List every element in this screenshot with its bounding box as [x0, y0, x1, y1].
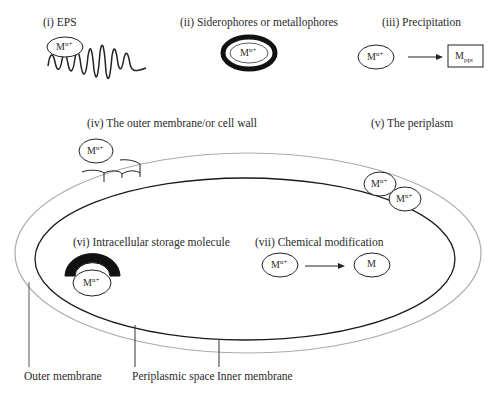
outer-membrane-ellipse: [15, 153, 481, 353]
outer-membrane-ion-label: Mn+: [87, 144, 103, 156]
chemical-product-label: M: [367, 258, 376, 269]
outer-membrane-panel-label: (iv) The outer membrane/or cell wall: [87, 117, 257, 129]
chemical-arrowhead: [338, 263, 345, 269]
inner-membrane-callout: Inner membrane: [217, 370, 293, 382]
precipitation-arrowhead: [436, 54, 443, 60]
chemical-ion-label: Mn+: [271, 258, 287, 270]
periplasm-ion-label-1: Mn+: [371, 177, 387, 189]
periplasm-label: (v) The periplasm: [371, 117, 453, 129]
precipitation-ion-label: Mn+: [367, 50, 383, 62]
eps-label: (i) EPS: [43, 16, 77, 28]
siderophore-ion-label: Mn+: [240, 46, 256, 58]
chemical-modification-label: (vii) Chemical modification: [255, 236, 383, 248]
siderophores-label: (ii) Siderophores or metallophores: [180, 16, 338, 28]
periplasm-ion-label-2: Mn+: [396, 192, 412, 204]
storage-ion-label: Mn+: [83, 276, 99, 288]
precipitate-label: Mppt: [455, 50, 473, 64]
storage-label: (vi) Intracellular storage molecule: [73, 236, 230, 248]
diagram-canvas: [0, 0, 501, 402]
precipitation-label: (iii) Precipitation: [382, 16, 461, 28]
outer-membrane-callout: Outer membrane: [24, 370, 102, 382]
eps-ion-label: Mn+: [56, 40, 72, 52]
periplasmic-space-callout: Periplasmic space: [132, 370, 215, 382]
